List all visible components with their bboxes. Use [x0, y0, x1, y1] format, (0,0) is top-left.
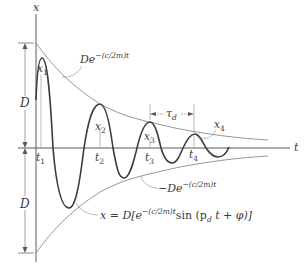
lower-envelope-label: −De−(c/2m)t	[158, 180, 217, 195]
damped-period-dimension: τd	[150, 107, 194, 122]
lower-envelope-leader	[141, 176, 158, 188]
x-axis-label: x	[33, 1, 40, 14]
damped-period-label: τd	[166, 107, 177, 122]
peak-label-x2: x2	[95, 120, 106, 135]
lower-amplitude-label: D	[19, 197, 30, 211]
upper-envelope-leader	[62, 66, 82, 77]
time-label-t2: t2	[95, 151, 104, 166]
equation-leader	[76, 203, 98, 215]
damped-vibration-diagram: x t D D x1 x2 x3 x4 t1 t2 t3 t4	[0, 0, 307, 277]
peak-label-x3: x3	[144, 130, 155, 145]
upper-envelope-curve	[36, 43, 268, 140]
upper-envelope-label: De−(c/2m)t	[79, 51, 130, 66]
time-label-t4: t4	[189, 148, 198, 163]
time-label-t1: t1	[36, 151, 45, 166]
t-axis-label: t	[294, 141, 299, 154]
lower-envelope-curve	[36, 156, 268, 253]
upper-amplitude-label: D	[19, 96, 30, 110]
time-label-t3: t3	[145, 151, 154, 166]
motion-equation: x = D[e−(c/2m)tsin (pd t + φ)]	[100, 207, 253, 224]
x4-leader-line	[198, 130, 216, 138]
lower-amplitude-dimension: D	[18, 148, 34, 253]
upper-amplitude-dimension: D	[18, 43, 34, 148]
